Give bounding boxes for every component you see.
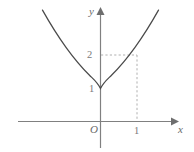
y-axis-label: y bbox=[89, 6, 94, 17]
x-axis-tick-label-1: 1 bbox=[134, 126, 139, 137]
parabola-figure: y x O 2 1 1 bbox=[0, 0, 194, 152]
y-axis-tick-label-2: 2 bbox=[87, 50, 92, 61]
y-axis-arrowhead bbox=[97, 7, 105, 15]
x-axis-label: x bbox=[178, 124, 183, 135]
origin-label: O bbox=[90, 124, 98, 135]
y-axis-tick-label-1: 1 bbox=[89, 84, 94, 95]
